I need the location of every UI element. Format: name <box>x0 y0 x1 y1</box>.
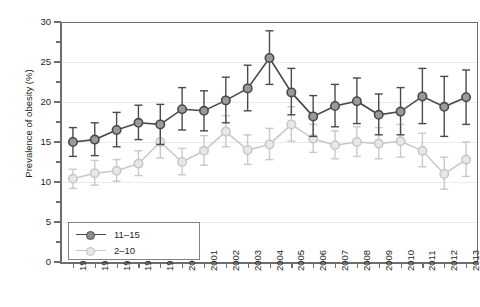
data-point <box>375 111 383 119</box>
legend-label-2-10: 2–10 <box>114 245 135 256</box>
data-point <box>112 167 120 175</box>
legend-marker-2-10 <box>86 247 95 256</box>
data-point <box>309 112 317 120</box>
data-point <box>69 175 77 183</box>
data-point <box>418 92 426 100</box>
data-point <box>222 127 230 135</box>
data-point <box>200 107 208 115</box>
data-point <box>396 137 404 145</box>
data-point <box>396 107 404 115</box>
legend-line-11-15 <box>76 234 106 235</box>
plot-series-area <box>0 0 480 307</box>
data-point <box>287 88 295 96</box>
data-point <box>91 169 99 177</box>
data-point <box>265 54 273 62</box>
data-point <box>462 155 470 163</box>
data-point <box>91 135 99 143</box>
data-point <box>353 97 361 105</box>
legend-item-11-15[interactable]: 11–15 <box>76 227 140 242</box>
legend-marker-11-15 <box>86 231 95 240</box>
data-point <box>156 120 164 128</box>
data-point <box>178 105 186 113</box>
data-point <box>265 140 273 148</box>
data-point <box>440 103 448 111</box>
data-point <box>178 158 186 166</box>
data-point <box>134 119 142 127</box>
data-point <box>243 146 251 154</box>
data-point <box>375 139 383 147</box>
data-point <box>69 138 77 146</box>
data-point <box>440 170 448 178</box>
legend-line-2-10 <box>76 250 106 251</box>
data-point <box>418 147 426 155</box>
series-2–10 <box>69 107 471 189</box>
legend-label-11-15: 11–15 <box>114 229 140 240</box>
data-point <box>200 147 208 155</box>
data-point <box>287 120 295 128</box>
obesity-prevalence-chart: Prevalence of obesity (%) 051015202530 1… <box>0 0 480 307</box>
data-point <box>353 138 361 146</box>
data-point <box>462 93 470 101</box>
data-point <box>222 96 230 104</box>
data-point <box>243 84 251 92</box>
data-point <box>134 159 142 167</box>
legend: 11–15 2–10 <box>68 222 200 260</box>
data-point <box>112 126 120 134</box>
legend-item-2-10[interactable]: 2–10 <box>76 243 135 258</box>
data-point <box>331 141 339 149</box>
data-point <box>331 102 339 110</box>
